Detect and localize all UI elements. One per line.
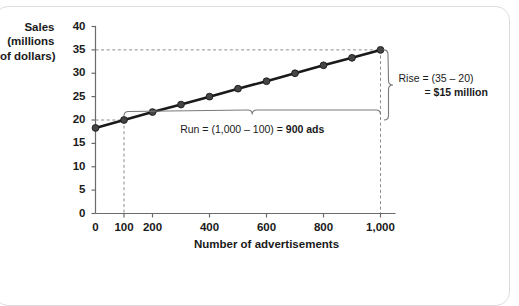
rise-annotation-line1: Rise = (35 – 20) bbox=[399, 71, 488, 85]
y-axis-title-line: Sales bbox=[0, 20, 55, 35]
y-axis-tick-label: 20 bbox=[60, 113, 86, 125]
y-axis-tick-label: 35 bbox=[60, 43, 86, 55]
x-axis-tick-label: 1,000 bbox=[359, 221, 403, 233]
run-annotation: Run = (1,000 – 100) = 900 ads bbox=[124, 122, 381, 136]
rise-annotation: Rise = (35 – 20)= $15 million bbox=[399, 71, 488, 99]
y-axis-tick-label: 40 bbox=[60, 20, 86, 32]
y-axis-title-line: (millions bbox=[0, 34, 55, 49]
data-point bbox=[377, 46, 384, 53]
y-axis-tick-label: 25 bbox=[60, 90, 86, 102]
rise-bracket bbox=[384, 50, 394, 120]
data-point bbox=[235, 85, 242, 92]
y-axis-tick-label: 0 bbox=[60, 207, 86, 219]
data-point bbox=[292, 70, 299, 77]
data-point bbox=[178, 101, 185, 108]
x-axis-tick-label: 200 bbox=[131, 221, 175, 233]
data-point bbox=[320, 62, 327, 69]
x-axis-tick-label: 800 bbox=[302, 221, 346, 233]
y-axis-title: Sales(millionsof dollars) bbox=[0, 20, 55, 64]
y-axis-tick-label: 10 bbox=[60, 160, 86, 172]
data-point bbox=[349, 54, 356, 61]
data-point-markers bbox=[92, 46, 384, 131]
data-point bbox=[206, 93, 213, 100]
x-axis-title: Number of advertisements bbox=[137, 238, 397, 250]
y-axis-title-line: of dollars) bbox=[0, 49, 55, 64]
y-axis-tick-label: 5 bbox=[60, 183, 86, 195]
x-axis-tick-label: 600 bbox=[245, 221, 289, 233]
rise-annotation-line2: = $15 million bbox=[399, 85, 488, 99]
x-axis-tick-label: 400 bbox=[188, 221, 232, 233]
data-point bbox=[263, 78, 270, 85]
data-point bbox=[149, 109, 156, 116]
y-axis-tick-label: 15 bbox=[60, 136, 86, 148]
data-point bbox=[92, 125, 99, 132]
y-axis-tick-label: 30 bbox=[60, 66, 86, 78]
run-bracket bbox=[124, 110, 381, 116]
